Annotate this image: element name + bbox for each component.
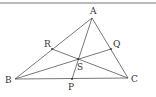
label-S: S xyxy=(77,62,83,72)
point-P xyxy=(71,78,73,80)
label-P: P xyxy=(68,82,74,92)
label-C: C xyxy=(131,74,138,84)
segment-CA xyxy=(92,18,128,78)
label-B: B xyxy=(5,75,12,85)
label-A: A xyxy=(89,6,97,16)
point-R xyxy=(51,48,53,50)
point-Q xyxy=(110,48,112,50)
label-R: R xyxy=(44,39,51,49)
point-S xyxy=(77,58,79,60)
triangle-diagram: A B C P Q R S xyxy=(0,0,156,97)
label-Q: Q xyxy=(113,39,120,49)
